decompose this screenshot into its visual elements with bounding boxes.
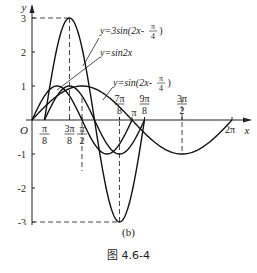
subfigure-caption: (b) [0, 226, 257, 238]
y-axis-arrow [30, 4, 35, 13]
y-tick-label: 2 [21, 47, 26, 58]
x-tick-numerator: 7π [114, 93, 124, 104]
x-tick-denominator: 8 [117, 105, 122, 116]
figure-caption: 图 4.6-4 [0, 246, 257, 262]
leader-line [57, 58, 99, 90]
x-axis-label: x [244, 124, 250, 136]
x-tick-numerator: 3π [64, 123, 74, 134]
leader-line [83, 38, 99, 66]
x-tick-numerator: 3π [177, 93, 187, 104]
label-close-paren: ) [167, 77, 170, 89]
x-tick-denominator: 8 [142, 105, 147, 116]
labels: yxO321-1-2-3π83π8π27π8π9π83π22πy=3sin(2x… [18, 1, 250, 225]
function-graph: yxO321-1-2-3π83π8π27π8π9π83π22πy=3sin(2x… [0, 0, 257, 225]
y-tick-label: -2 [18, 183, 26, 194]
x-tick-numerator: 9π [139, 93, 149, 104]
y-axis-label: y [21, 1, 27, 13]
label-frac-num: π [151, 22, 155, 31]
curve-label: y=sin(2x- [112, 77, 152, 89]
curve-label: y=3sin(2x- [99, 25, 144, 37]
origin-label: O [20, 124, 28, 136]
x-tick-denominator: 2 [80, 135, 85, 146]
x-axis-arrow [243, 118, 252, 123]
y-tick-label: 3 [21, 13, 26, 24]
x-tick-denominator: 8 [42, 135, 47, 146]
x-tick-denominator: 8 [67, 135, 72, 146]
x-tick-numerator: π [79, 123, 84, 134]
label-frac-num: π [159, 74, 163, 83]
x-tick-denominator: 2 [180, 105, 185, 116]
y-tick-label: -3 [18, 217, 26, 225]
label-frac-den: 4 [151, 32, 155, 41]
curve-label: y=sin2x [99, 47, 133, 58]
label-close-paren: ) [159, 25, 162, 37]
label-frac-den: 4 [159, 84, 163, 93]
y-tick-label: -1 [18, 149, 26, 160]
y-tick-label: 1 [21, 81, 26, 92]
x-tick-label: 2π [225, 124, 235, 135]
x-tick-numerator: π [42, 123, 47, 134]
x-tick-label: π [131, 107, 136, 118]
